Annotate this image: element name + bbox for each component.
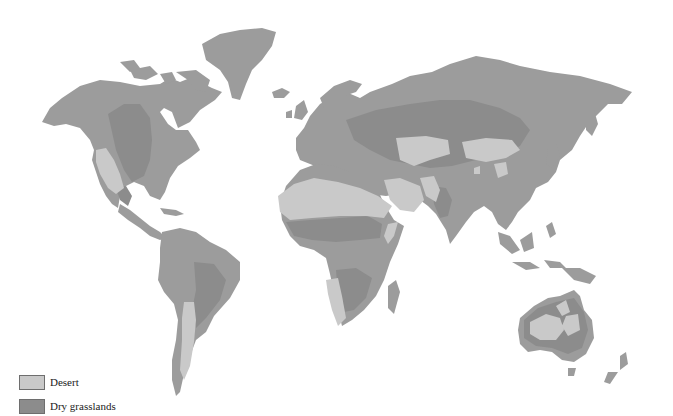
new-guinea bbox=[562, 268, 596, 284]
uk-ireland bbox=[286, 100, 308, 120]
tasmania bbox=[568, 368, 576, 376]
madagascar bbox=[388, 280, 400, 314]
new-zealand bbox=[604, 352, 628, 384]
iceland bbox=[272, 88, 290, 98]
caribbean bbox=[160, 208, 184, 216]
philippines bbox=[546, 222, 556, 238]
desert-swatch bbox=[19, 375, 45, 390]
world-map bbox=[0, 0, 673, 416]
central-america bbox=[118, 204, 166, 240]
legend-item-dry-grasslands: Dry grasslands bbox=[19, 396, 116, 416]
legend: Desert Dry grasslands bbox=[19, 372, 116, 416]
legend-label-desert: Desert bbox=[50, 376, 79, 388]
dry-grasslands-swatch bbox=[19, 399, 45, 414]
legend-label-dry-grasslands: Dry grasslands bbox=[50, 400, 116, 412]
legend-item-desert: Desert bbox=[19, 372, 116, 392]
indonesia bbox=[498, 232, 566, 270]
